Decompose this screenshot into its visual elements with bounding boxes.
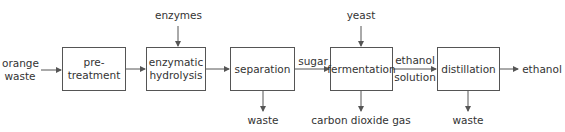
step-distillation: distillation: [437, 47, 500, 91]
step-pre-treatment: pre-treatment: [62, 47, 126, 91]
step-label: fermentation: [327, 63, 395, 76]
step-label: distillation: [441, 63, 495, 76]
step-enzymatic-hydrolysis: enzymatic hydrolysis: [146, 47, 206, 91]
input-line-1: orange: [2, 57, 38, 70]
step-label: separation: [235, 63, 291, 76]
step-fermentation: fermentation: [330, 47, 393, 91]
input-orange-waste: orange waste: [2, 57, 38, 83]
input-line-2: waste: [2, 70, 38, 83]
output-ethanol: ethanol: [521, 63, 563, 76]
input-yeast: yeast: [345, 9, 377, 22]
output-separation-waste: waste: [243, 114, 283, 127]
step-label-line-1: enzymatic: [149, 56, 203, 69]
step-label-line-2: hydrolysis: [149, 69, 203, 82]
output-carbon-dioxide: carbon dioxide gas: [305, 114, 417, 127]
input-enzymes: enzymes: [155, 9, 201, 22]
step-separation: separation: [230, 47, 295, 91]
flow-ethanol-solution-line-1: ethanol: [394, 54, 436, 67]
flow-sugar: sugar: [297, 55, 329, 68]
output-distillation-waste: waste: [448, 114, 488, 127]
step-label: pre-treatment: [63, 56, 125, 82]
flow-ethanol-solution-line-2: solution: [394, 71, 436, 84]
